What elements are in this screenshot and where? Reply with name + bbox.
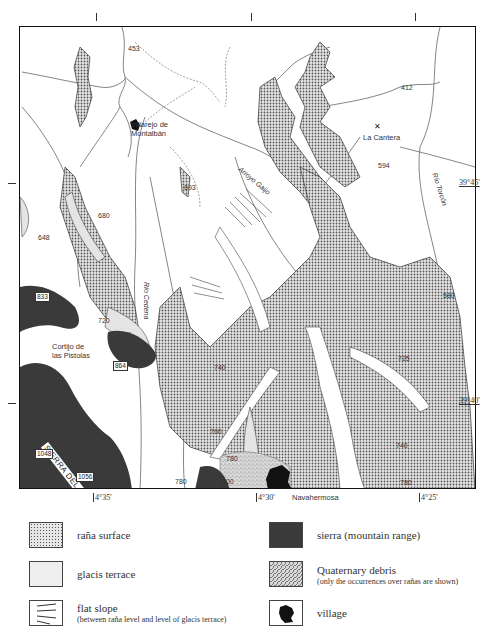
elev-800: 800	[222, 478, 234, 485]
place-villarejo: Villarejo de Montalbán	[131, 120, 168, 138]
lon-4-30: 4°30'	[256, 493, 275, 502]
elev-725: 725	[398, 355, 410, 362]
legend-flat-slope-label: flat slope	[77, 602, 118, 614]
elev-833: 833	[35, 292, 50, 302]
villarejo-line2: Montalbán	[131, 129, 166, 138]
rana-swatch	[29, 522, 63, 548]
glacis-swatch	[29, 561, 63, 587]
legend-sierra: sierra (mountain range)	[269, 522, 420, 548]
legend-glacis: glacis terrace	[29, 561, 135, 587]
elev-693: 693	[184, 184, 196, 191]
villarejo-line1: Villarejo de	[131, 120, 168, 129]
left-tick-45	[8, 183, 16, 184]
lon-4-25: 4°25'	[419, 493, 438, 502]
legend-flat-slope: flat slope (between raña level and level…	[29, 600, 226, 626]
cortijo-line1: Cortijo de	[52, 342, 84, 351]
elev-594: 594	[378, 162, 390, 169]
sierra-swatch	[269, 522, 303, 548]
elev-740b: 740	[396, 442, 408, 449]
lon-4-35: 4°35'	[93, 493, 112, 502]
elev-740: 740	[214, 364, 226, 371]
la-cantera-quarry-icon: ✕	[374, 122, 381, 131]
village-icon	[270, 601, 302, 625]
flat-slope-swatch	[29, 600, 63, 626]
top-tick-3	[415, 13, 416, 21]
cortijo-line2: las Pistolas	[52, 351, 90, 360]
elev-580: 580	[443, 292, 455, 299]
legend-rana: raña surface	[29, 522, 130, 548]
legend-village-label: village	[317, 607, 347, 619]
legend-flat-slope-sub: (between raña level and level of glacis …	[77, 615, 226, 625]
elev-648: 648	[38, 234, 50, 241]
elev-780c: 780	[400, 479, 412, 486]
top-tick-2	[251, 13, 252, 21]
left-tick-40	[8, 403, 16, 404]
place-navahermosa: Navahermosa	[292, 493, 339, 502]
elev-620: 620	[141, 358, 153, 365]
village-swatch	[269, 600, 303, 626]
legend-glacis-label: glacis terrace	[77, 568, 135, 580]
lat-39-40: 39°40'	[459, 396, 480, 405]
elev-412: 412	[401, 84, 413, 91]
map-canvas	[20, 27, 476, 489]
place-la-cantera: La Cantera	[363, 133, 400, 142]
place-cortijo: Cortijo de las Pistolas	[52, 342, 90, 360]
elev-780b: 780	[175, 478, 187, 485]
lat-39-45: 39°45'	[459, 178, 480, 187]
legend-village: village	[269, 600, 347, 626]
elev-760: 760	[210, 428, 222, 435]
legend-debris-sub: (only the occurrences over rañas are sho…	[317, 577, 458, 587]
elev-720: 720	[98, 317, 110, 324]
legend-debris-label: Quaternary debris	[317, 564, 396, 576]
legend-sierra-label: sierra (mountain range)	[317, 529, 420, 541]
elev-780a: 780	[226, 455, 238, 462]
river-rio-cedena: Río Cedena	[143, 282, 150, 319]
debris-swatch	[269, 561, 303, 587]
elev-864: 864	[113, 361, 128, 371]
flat-slope-hatch-icon	[30, 601, 62, 625]
elev-453: 453	[128, 45, 140, 52]
top-tick-1	[96, 13, 97, 21]
elev-1048: 1048	[35, 449, 53, 459]
elev-1056: 1056	[76, 472, 94, 482]
elev-680: 680	[98, 212, 110, 219]
legend-rana-label: raña surface	[77, 529, 130, 541]
map-frame: Villarejo de Montalbán La Cantera ✕ Cort…	[19, 26, 476, 489]
legend-debris: Quaternary debris (only the occurrences …	[269, 561, 458, 587]
